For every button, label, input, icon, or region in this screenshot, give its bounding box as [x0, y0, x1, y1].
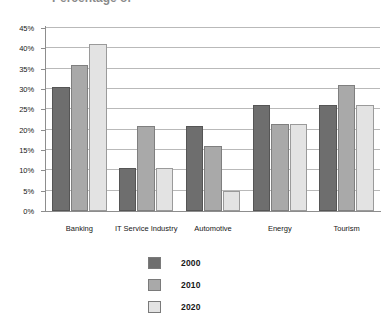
y-tick-label: 5% — [23, 186, 34, 195]
y-tick-label: 20% — [19, 125, 34, 134]
bar-group — [319, 28, 374, 211]
bar-group — [119, 28, 174, 211]
y-tick-label: 25% — [19, 105, 34, 114]
bar-group — [186, 28, 241, 211]
legend-item[interactable]: 2010 — [148, 274, 201, 296]
bar — [204, 146, 222, 211]
bar — [356, 105, 374, 211]
plot-area — [46, 28, 380, 211]
bar-chart: Percentage of 0%5%10%15%20%25%30%35%40%4… — [0, 0, 387, 329]
legend-label: 2010 — [181, 280, 201, 290]
x-category-label: Automotive — [194, 224, 232, 233]
chart-legend: 200020102020 — [148, 252, 201, 318]
y-tick-label: 0% — [23, 207, 34, 216]
bar — [223, 191, 241, 211]
legend-item[interactable]: 2020 — [148, 296, 201, 318]
bar — [290, 124, 308, 211]
y-tick-label: 30% — [19, 85, 34, 94]
bar — [186, 126, 204, 211]
y-tick-label: 35% — [19, 64, 34, 73]
legend-swatch-icon — [148, 257, 161, 269]
bar — [253, 105, 271, 211]
legend-label: 2000 — [181, 258, 201, 268]
legend-item[interactable]: 2000 — [148, 252, 201, 274]
bar — [137, 126, 155, 211]
bar — [52, 87, 70, 211]
legend-swatch-icon — [148, 301, 161, 313]
x-category-label: IT Service Industry — [115, 224, 177, 233]
bar — [271, 124, 289, 211]
y-tick-label: 15% — [19, 146, 34, 155]
y-tick-label: 40% — [19, 44, 34, 53]
legend-swatch-icon — [148, 279, 161, 291]
y-tick-label: 45% — [19, 24, 34, 33]
bar — [71, 65, 89, 211]
chart-title-cropped: Percentage of — [0, 0, 387, 7]
legend-label: 2020 — [181, 302, 201, 312]
y-axis-labels: 0%5%10%15%20%25%30%35%40%45% — [0, 28, 42, 211]
bar — [156, 168, 174, 211]
bar — [338, 85, 356, 211]
chart-title: Percentage of — [52, 0, 131, 5]
x-category-label: Energy — [268, 224, 292, 233]
bar — [119, 168, 137, 211]
bar-group — [52, 28, 107, 211]
bar — [89, 44, 107, 211]
bar-group — [253, 28, 308, 211]
x-category-label: Banking — [66, 224, 93, 233]
bar — [319, 105, 337, 211]
x-axis-line — [45, 211, 381, 212]
y-tick-label: 10% — [19, 166, 34, 175]
x-category-label: Tourism — [333, 224, 359, 233]
